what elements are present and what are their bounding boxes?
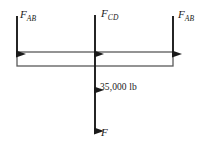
label-load-magnitude: 35,000 lb: [100, 83, 137, 93]
label-force-ab-left-subscript: AB: [27, 14, 37, 23]
label-force-cd-subscript: CD: [108, 13, 119, 22]
label-force-ab-left: FAB: [20, 9, 36, 20]
label-force-ab-right: FAB: [178, 9, 194, 20]
label-force-resultant: F: [101, 127, 108, 138]
label-force-cd: FCD: [101, 8, 119, 19]
label-force-ab-right-subscript: AB: [185, 14, 195, 23]
label-force-ab-left-base: F: [20, 8, 27, 20]
free-body-diagram: FAB FCD FAB 35,000 lb F: [0, 0, 202, 151]
label-force-cd-base: F: [101, 7, 108, 19]
label-force-ab-right-base: F: [178, 8, 185, 20]
